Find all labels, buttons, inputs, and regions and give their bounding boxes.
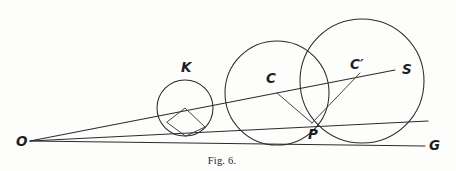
figure-container: O K C C′ P S G Fig. 6. xyxy=(0,0,456,171)
radius-P-to-Cprime-segment xyxy=(312,73,360,123)
label-P: P xyxy=(308,126,318,142)
label-C-prime: C′ xyxy=(350,56,364,72)
figure-caption: Fig. 6. xyxy=(208,155,237,166)
label-C: C xyxy=(266,70,276,86)
label-S: S xyxy=(402,61,412,77)
label-G: G xyxy=(429,137,440,153)
geometry-diagram: O K C C′ P S G Fig. 6. xyxy=(0,0,456,171)
label-K: K xyxy=(181,59,193,75)
ray-OG-line xyxy=(30,141,425,146)
ray-OP-line xyxy=(30,121,428,141)
label-O: O xyxy=(16,133,27,149)
